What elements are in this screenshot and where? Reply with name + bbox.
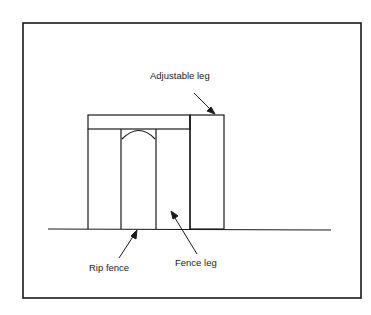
arrowhead-adjustable-leg <box>207 107 215 114</box>
rip-fence-arch <box>122 131 155 140</box>
arrow-rip-fence <box>119 235 134 258</box>
top-crossbar <box>88 115 190 129</box>
label-rip-fence: Rip fence <box>89 262 129 273</box>
adjustable-leg <box>190 115 224 229</box>
arrowhead-fence-leg <box>171 211 178 219</box>
label-adjustable-leg: Adjustable leg <box>150 70 210 81</box>
arrow-fence-leg <box>175 218 197 254</box>
label-fence-leg: Fence leg <box>175 257 217 268</box>
